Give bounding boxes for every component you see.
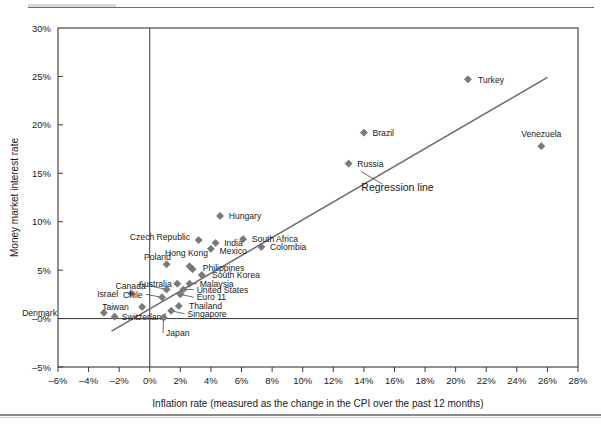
data-point-label: Malaysia <box>200 279 234 289</box>
bottom-rule-secondary <box>0 417 601 418</box>
data-point-marker <box>186 280 193 287</box>
data-point-marker <box>538 143 545 150</box>
x-tick-label: 18% <box>416 375 436 386</box>
x-tick-label: 28% <box>568 375 588 386</box>
data-point-label: Japan <box>166 328 190 338</box>
data-point-label: Poland <box>144 252 171 262</box>
x-tick-label: 10% <box>293 375 313 386</box>
y-tick-label: 20% <box>32 119 52 130</box>
data-point-label: Turkey <box>478 75 505 85</box>
y-tick-label: 15% <box>32 168 52 179</box>
x-tick-label: 2% <box>173 375 187 386</box>
data-point-label: Russia <box>357 159 383 169</box>
x-tick-label: 0% <box>143 375 157 386</box>
data-points: DenmarkSwitzerlandIsraelTaiwanChileCanad… <box>22 75 561 339</box>
annotation-text: Regression line <box>361 181 434 193</box>
data-point-marker <box>111 313 118 320</box>
regression-line-path <box>112 77 548 331</box>
data-point-label: Czech Republic <box>130 232 191 242</box>
x-tick-label: –4% <box>79 375 99 386</box>
data-point-label: Philippines <box>203 263 245 273</box>
data-point-label: Switzerland <box>122 312 167 322</box>
data-point-marker <box>195 237 202 244</box>
data-point-marker <box>258 243 265 250</box>
data-point-marker <box>163 261 170 268</box>
top-rule <box>28 7 594 8</box>
x-tick-label: 22% <box>477 375 497 386</box>
x-tick-label: –2% <box>110 375 130 386</box>
data-point-marker <box>360 129 367 136</box>
data-point-marker <box>168 307 175 314</box>
data-point-label: Hong Kong <box>165 248 208 258</box>
x-tick-label: 26% <box>538 375 558 386</box>
data-point-marker <box>174 280 181 287</box>
data-point-marker <box>207 245 214 252</box>
y-tick-label: 10% <box>32 216 52 227</box>
x-axis-title: Inflation rate (measured as the change i… <box>152 398 483 409</box>
data-point-label: Brazil <box>373 128 395 138</box>
y-tick-label: 25% <box>32 71 52 82</box>
chart-figure: –6%–4%–2%0%2%4%6%8%10%12%14%16%18%20%22%… <box>0 0 601 424</box>
x-tick-label: 8% <box>265 375 279 386</box>
data-point-label: Australia <box>138 279 172 289</box>
data-point-marker <box>212 239 219 246</box>
y-tick-label: 5% <box>37 265 51 276</box>
x-tick-label: 6% <box>235 375 249 386</box>
x-tick-label: 20% <box>446 375 466 386</box>
x-tick-label: 14% <box>354 375 374 386</box>
bottom-rule <box>0 414 601 416</box>
x-tick-label: 12% <box>324 375 344 386</box>
data-point-marker <box>139 303 146 310</box>
data-point-marker <box>217 212 224 219</box>
y-tick-label: –5% <box>32 362 52 373</box>
data-point-label: Chile <box>123 290 143 300</box>
data-point-label: Denmark <box>22 308 58 318</box>
data-point-label: Hungary <box>229 211 262 221</box>
x-tick-label: 24% <box>507 375 527 386</box>
data-point-label: Colombia <box>270 242 307 252</box>
x-tick-label: 4% <box>204 375 218 386</box>
x-tick-label: 16% <box>385 375 405 386</box>
data-point-marker <box>345 160 352 167</box>
x-axis-ticks: –6%–4%–2%0%2%4%6%8%10%12%14%16%18%20%22%… <box>48 367 588 386</box>
x-tick-label: –6% <box>48 375 68 386</box>
data-point-label: Taiwan <box>102 302 129 312</box>
y-tick-label: 30% <box>32 23 52 34</box>
data-point-marker <box>464 76 471 83</box>
y-axis-title: Money market interest rate <box>9 138 20 257</box>
data-point-marker <box>175 302 182 309</box>
data-point-label: Venezuela <box>521 129 561 139</box>
regression-annotation: Regression line <box>361 171 434 192</box>
regression-line <box>112 77 548 331</box>
data-point-label: Thailand <box>189 301 222 311</box>
scatter-plot: –6%–4%–2%0%2%4%6%8%10%12%14%16%18%20%22%… <box>0 0 601 424</box>
